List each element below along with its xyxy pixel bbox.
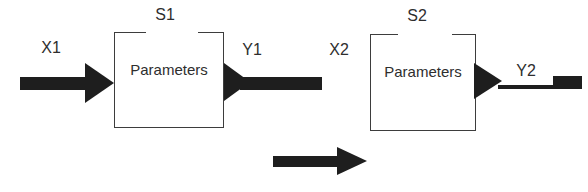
- stage1-input-arrow-head-icon: [85, 63, 114, 103]
- stage2-output-label: Y2: [511, 62, 541, 79]
- sequence-arrow-shaft: [273, 156, 337, 167]
- stage1-input-arrow-shaft: [20, 77, 88, 90]
- stage1-output-label: Y1: [237, 41, 267, 58]
- stage1-top-border-gap: [146, 31, 198, 36]
- stage1-output-arrow-shaft: [240, 77, 322, 90]
- stage2-input-label: X2: [324, 41, 354, 58]
- stage1-parameters-box: Parameters: [114, 32, 224, 128]
- stage2-output-arrow-head-icon: [474, 63, 502, 99]
- stage2-top-border-gap: [398, 33, 452, 38]
- stage2-parameters-box: Parameters: [370, 34, 476, 131]
- stage1-box-label: Parameters: [115, 61, 223, 78]
- two-stage-system-diagram: S1 X1 Y1 Parameters S2 X2 Y2 Parameters: [0, 0, 588, 192]
- stage1-system-label: S1: [150, 6, 180, 23]
- stage1-input-label: X1: [36, 39, 66, 56]
- stage2-output-line-end-cap: [553, 76, 582, 89]
- stage2-box-label: Parameters: [371, 63, 475, 80]
- sequence-arrow-head-icon: [337, 147, 367, 175]
- stage2-system-label: S2: [402, 7, 432, 24]
